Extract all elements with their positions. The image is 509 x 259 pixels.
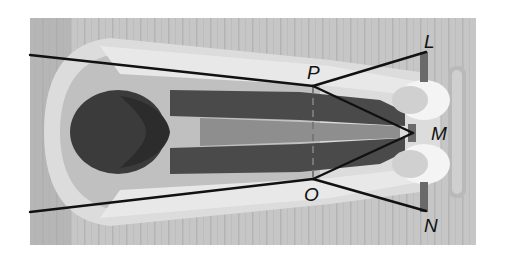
label-L: L — [424, 31, 435, 52]
label-O: O — [304, 184, 319, 205]
label-N: N — [424, 215, 438, 236]
label-M: M — [431, 123, 447, 144]
mat-board — [448, 66, 466, 198]
label-P: P — [307, 62, 320, 83]
diagram-figure: P L M O N — [0, 0, 509, 259]
